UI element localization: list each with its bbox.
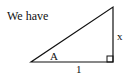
base-label: 1	[76, 63, 82, 75]
triangle	[31, 7, 113, 62]
angle-label: A	[50, 50, 58, 62]
right-angle-marker	[107, 56, 113, 62]
height-label: x	[117, 30, 123, 42]
right-triangle-diagram: A 1 x	[0, 0, 123, 76]
